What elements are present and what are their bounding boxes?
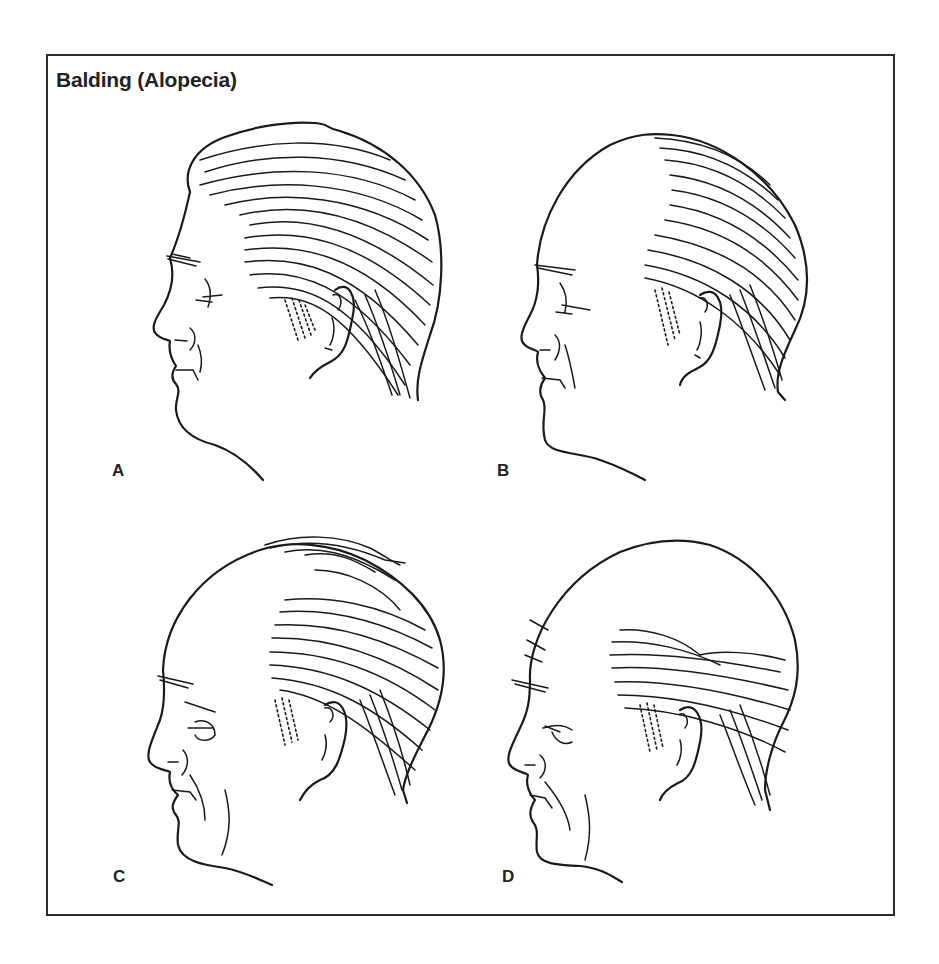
illustration-canvas	[0, 0, 939, 964]
head-c-illustration	[148, 537, 443, 885]
head-b-illustration	[521, 134, 807, 480]
head-a-illustration	[154, 123, 442, 480]
head-d-illustration	[508, 541, 797, 882]
